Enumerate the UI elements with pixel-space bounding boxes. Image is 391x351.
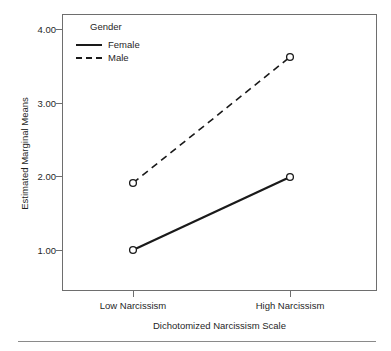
legend-line-solid-icon bbox=[76, 40, 102, 50]
x-axis-title: Dichotomized Narcissism Scale bbox=[62, 320, 377, 331]
legend-item-female: Female bbox=[76, 38, 186, 51]
y-axis-tick-label-4: 4.00 bbox=[0, 25, 56, 34]
legend-title: Gender bbox=[90, 22, 186, 32]
legend-line-dashed-icon bbox=[76, 53, 102, 63]
legend-item-label-female: Female bbox=[108, 40, 140, 50]
y-axis-title: Estimated Marginal Means bbox=[19, 54, 30, 254]
interaction-plot-figure: 4.00 3.00 2.00 1.00 Estimated Marginal M… bbox=[0, 0, 391, 351]
footer-divider bbox=[18, 341, 376, 342]
x-axis-tick-mark-low bbox=[133, 291, 134, 297]
x-axis-tick-label-high: High Narcissism bbox=[220, 300, 360, 311]
x-axis-tick-label-low: Low Narcissism bbox=[63, 300, 203, 311]
x-axis-tick-mark-high bbox=[290, 291, 291, 297]
legend-item-label-male: Male bbox=[108, 53, 129, 63]
chart-title bbox=[62, 0, 377, 3]
legend: Gender Female Male bbox=[76, 22, 186, 64]
legend-item-male: Male bbox=[76, 51, 186, 64]
